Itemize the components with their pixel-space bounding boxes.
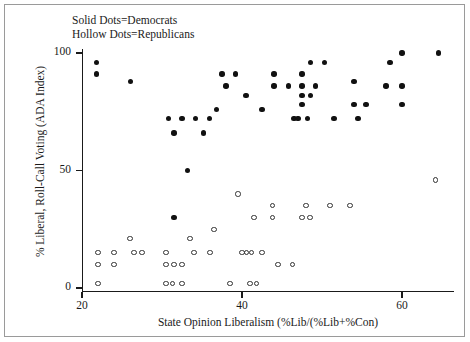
data-point-democrat	[387, 60, 392, 65]
data-point-republican	[227, 281, 232, 286]
data-point-democrat	[322, 60, 327, 65]
data-point-democrat	[171, 130, 176, 135]
data-point-democrat	[351, 79, 356, 84]
plot-area: Solid Dots=Democrats Hollow Dots=Republi…	[0, 0, 470, 342]
data-point-democrat	[299, 71, 304, 76]
data-point-republican	[187, 236, 192, 241]
x-axis-tick-label: 60	[382, 299, 422, 311]
data-point-democrat	[223, 83, 228, 88]
legend-republicans-label: Hollow Dots=Republicans	[72, 28, 194, 42]
data-point-republican	[270, 215, 275, 220]
data-point-democrat	[299, 93, 304, 98]
data-point-republican	[303, 203, 308, 208]
data-point-democrat	[166, 116, 171, 121]
y-axis-tick	[76, 287, 82, 288]
data-point-democrat	[399, 50, 404, 55]
data-point-democrat	[363, 102, 368, 107]
data-point-republican	[179, 281, 184, 286]
data-point-republican	[299, 215, 304, 220]
data-point-democrat	[233, 71, 238, 76]
data-point-republican	[211, 227, 216, 232]
data-point-republican	[254, 281, 259, 286]
data-point-democrat	[207, 116, 212, 121]
y-axis-line	[82, 49, 83, 292]
data-point-democrat	[179, 116, 184, 121]
y-axis-title: % Liberal, Roll-Call Voting (ADA Index)	[34, 62, 47, 262]
data-point-democrat	[214, 107, 219, 112]
data-point-republican	[270, 203, 275, 208]
data-point-republican	[171, 262, 176, 267]
data-point-democrat	[286, 83, 291, 88]
x-axis-tick	[81, 292, 82, 298]
data-point-republican	[131, 250, 136, 255]
y-axis-tick-label: 0	[31, 280, 71, 292]
data-point-republican	[251, 215, 256, 220]
data-point-republican	[207, 250, 212, 255]
data-point-republican	[95, 250, 100, 255]
data-point-republican	[235, 191, 240, 196]
data-point-democrat	[171, 215, 176, 220]
data-point-republican	[290, 262, 295, 267]
data-point-republican	[127, 236, 132, 241]
data-point-democrat	[243, 93, 248, 98]
data-point-republican	[163, 250, 168, 255]
data-point-republican	[307, 215, 312, 220]
x-axis-title: State Opinion Liberalism (%Lib/(%Lib+%Co…	[82, 316, 454, 328]
data-point-democrat	[399, 83, 404, 88]
y-axis-tick-label: 100	[31, 45, 71, 57]
data-point-republican	[163, 262, 168, 267]
data-point-republican	[249, 250, 254, 255]
data-point-republican	[111, 262, 116, 267]
scatter-plot-figure: Solid Dots=Democrats Hollow Dots=Republi…	[0, 0, 470, 342]
data-point-republican	[170, 281, 175, 286]
x-axis-tick	[401, 292, 402, 298]
legend-democrats-label: Solid Dots=Democrats	[72, 14, 194, 28]
data-point-democrat	[201, 130, 206, 135]
data-point-democrat	[299, 102, 304, 107]
data-point-democrat	[331, 116, 336, 121]
data-point-democrat	[295, 116, 300, 121]
x-axis-tick-label: 40	[222, 299, 262, 311]
data-point-democrat	[355, 116, 360, 121]
data-point-republican	[179, 262, 184, 267]
data-point-democrat	[271, 83, 276, 88]
data-point-democrat	[383, 83, 388, 88]
data-point-republican	[139, 250, 144, 255]
data-point-democrat	[313, 83, 318, 88]
x-axis-tick-label: 20	[62, 299, 102, 311]
data-point-democrat	[308, 93, 313, 98]
data-point-democrat	[271, 71, 276, 76]
data-point-democrat	[436, 50, 441, 55]
data-point-republican	[433, 177, 438, 182]
data-point-republican	[95, 262, 100, 267]
data-point-democrat	[219, 71, 224, 76]
data-point-democrat	[94, 71, 99, 76]
y-axis-tick	[76, 52, 82, 53]
data-point-democrat	[305, 116, 310, 121]
data-point-republican	[347, 203, 352, 208]
data-point-republican	[259, 250, 264, 255]
data-point-democrat	[399, 102, 404, 107]
data-point-democrat	[259, 107, 264, 112]
y-axis-tick	[76, 170, 82, 171]
data-point-democrat	[299, 83, 304, 88]
x-axis-tick	[241, 292, 242, 298]
data-point-republican	[95, 281, 100, 286]
data-point-republican	[247, 281, 252, 286]
data-point-republican	[275, 262, 280, 267]
data-point-republican	[191, 250, 196, 255]
data-point-republican	[327, 203, 332, 208]
x-axis-line	[82, 291, 454, 292]
legend: Solid Dots=Democrats Hollow Dots=Republi…	[72, 14, 194, 41]
data-point-republican	[111, 250, 116, 255]
data-point-democrat	[193, 116, 198, 121]
data-point-democrat	[94, 60, 99, 65]
data-point-democrat	[185, 168, 190, 173]
data-point-democrat	[128, 79, 133, 84]
data-point-republican	[163, 281, 168, 286]
data-point-democrat	[351, 102, 356, 107]
data-point-democrat	[308, 60, 313, 65]
